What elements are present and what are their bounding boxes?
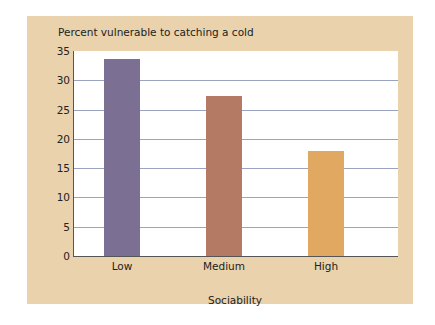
- plot-area: 05101520253035LowMediumHigh: [73, 51, 398, 257]
- x-axis-label: Sociability: [208, 294, 262, 306]
- y-tick-label: 10: [57, 191, 70, 203]
- y-tick-label: 35: [57, 45, 70, 57]
- y-tick-label: 5: [63, 221, 70, 233]
- x-tick-label: Low: [112, 260, 133, 272]
- y-tick-label: 15: [57, 162, 70, 174]
- x-tick-label: High: [314, 260, 338, 272]
- bar-high: [308, 151, 344, 256]
- chart-panel: Percent vulnerable to catching a cold 05…: [27, 16, 413, 304]
- x-tick-label: Medium: [203, 260, 245, 272]
- y-tick-label: 20: [57, 133, 70, 145]
- chart-title: Percent vulnerable to catching a cold: [58, 26, 254, 38]
- bar-medium: [206, 96, 242, 256]
- y-tick-label: 0: [63, 250, 70, 262]
- y-tick-label: 30: [57, 74, 70, 86]
- bar-low: [104, 59, 140, 256]
- y-tick-label: 25: [57, 104, 70, 116]
